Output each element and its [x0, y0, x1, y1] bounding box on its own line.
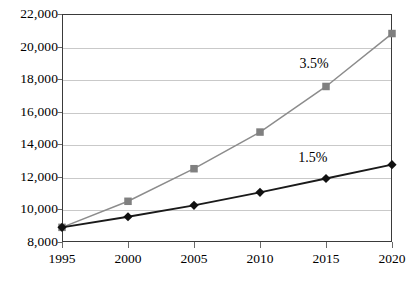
series-line — [62, 165, 392, 228]
data-point-marker — [388, 30, 396, 38]
data-point-marker — [190, 165, 198, 173]
data-point-marker — [387, 160, 396, 169]
series-layer — [0, 0, 406, 288]
series-35 — [58, 30, 396, 231]
data-point-marker — [124, 198, 132, 206]
data-point-marker — [322, 83, 330, 91]
series-annotation-label: 3.5% — [300, 57, 329, 71]
data-point-marker — [256, 128, 264, 136]
data-point-marker — [321, 174, 330, 183]
chart-container: 8,00010,00012,00014,00016,00018,00020,00… — [0, 0, 406, 288]
series-15 — [57, 160, 396, 232]
series-annotation-label: 1.5% — [298, 151, 327, 165]
data-point-marker — [123, 212, 132, 221]
data-point-marker — [255, 188, 264, 197]
data-point-marker — [189, 201, 198, 210]
